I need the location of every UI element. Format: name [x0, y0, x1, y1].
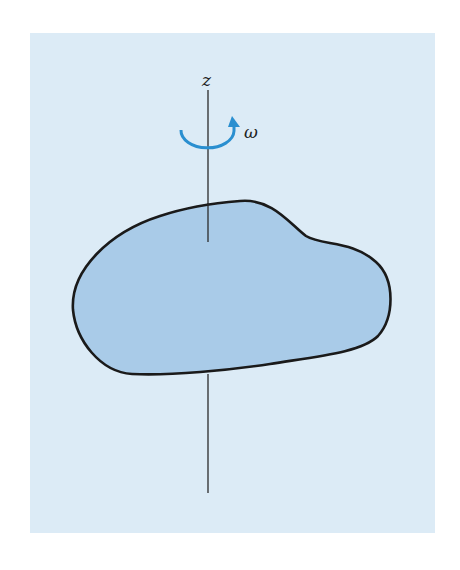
- arrowhead-icon: [228, 116, 240, 127]
- z-axis-label: z: [201, 70, 212, 90]
- rigid-body: [73, 201, 391, 375]
- diagram-canvas: z ω: [0, 0, 460, 570]
- omega-label: ω: [244, 122, 258, 142]
